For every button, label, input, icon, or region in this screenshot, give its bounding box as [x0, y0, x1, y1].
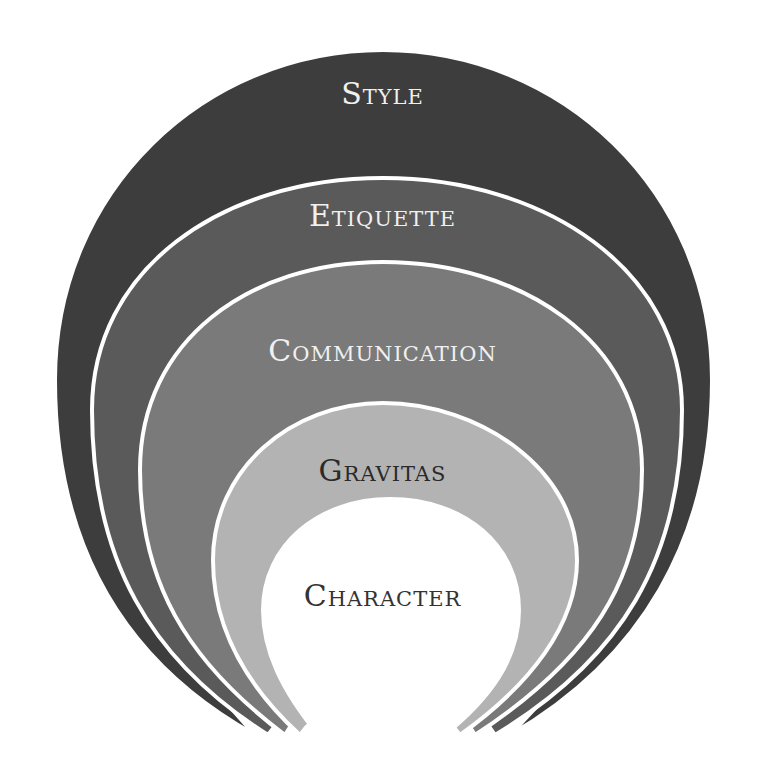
label-communication: Communication [0, 333, 765, 368]
label-etiquette: Etiquette [0, 198, 765, 233]
layers-diagram [0, 0, 765, 784]
label-style: Style [0, 76, 765, 111]
label-gravitas: Gravitas [0, 453, 765, 488]
layer-character [262, 498, 520, 736]
label-character: Character [0, 578, 765, 613]
